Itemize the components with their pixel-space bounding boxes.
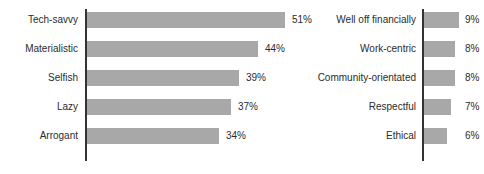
category-label: Selfish xyxy=(48,72,78,84)
bar xyxy=(424,41,455,57)
bar xyxy=(87,99,231,115)
value-label: 37% xyxy=(238,101,258,113)
bar-row: Selfish 39% xyxy=(0,70,310,86)
bar xyxy=(87,128,219,144)
value-label: 39% xyxy=(246,72,266,84)
chart-panel-negative-traits: Tech-savvy 51% Materialistic 44% Selfish… xyxy=(0,0,310,174)
value-label: 9% xyxy=(465,14,479,26)
value-label: 44% xyxy=(265,43,285,55)
category-label: Work-centric xyxy=(360,43,416,55)
bar xyxy=(424,99,451,115)
bar xyxy=(424,128,447,144)
bar-row: Materialistic 44% xyxy=(0,41,310,57)
value-label: 7% xyxy=(465,101,479,113)
bar-row: Tech-savvy 51% xyxy=(0,12,310,28)
value-label: 8% xyxy=(465,72,479,84)
bar-row: Work-centric 8% xyxy=(300,41,484,57)
bar-row: Respectful 7% xyxy=(300,99,484,115)
bar-row: Arrogant 34% xyxy=(0,128,310,144)
bar-row: Ethical 6% xyxy=(300,128,484,144)
bar xyxy=(424,12,459,28)
bar-row: Lazy 37% xyxy=(0,99,310,115)
bar xyxy=(87,70,239,86)
category-label: Materialistic xyxy=(25,43,78,55)
value-label: 34% xyxy=(226,130,246,142)
category-label: Arrogant xyxy=(40,130,78,142)
bar xyxy=(87,41,258,57)
category-label: Respectful xyxy=(369,101,416,113)
chart-panel-positive-traits: Well off financially 9% Work-centric 8% … xyxy=(300,0,484,174)
bar xyxy=(424,70,455,86)
category-label: Lazy xyxy=(57,101,78,113)
category-label: Ethical xyxy=(386,130,416,142)
category-label: Community-orientated xyxy=(318,72,416,84)
value-label: 8% xyxy=(465,43,479,55)
value-label: 6% xyxy=(465,130,479,142)
dual-bar-chart-figure: Tech-savvy 51% Materialistic 44% Selfish… xyxy=(0,0,484,174)
category-label: Tech-savvy xyxy=(28,14,78,26)
bar-row: Community-orientated 8% xyxy=(300,70,484,86)
category-label: Well off financially xyxy=(336,14,416,26)
bar xyxy=(87,12,285,28)
bar-row: Well off financially 9% xyxy=(300,12,484,28)
